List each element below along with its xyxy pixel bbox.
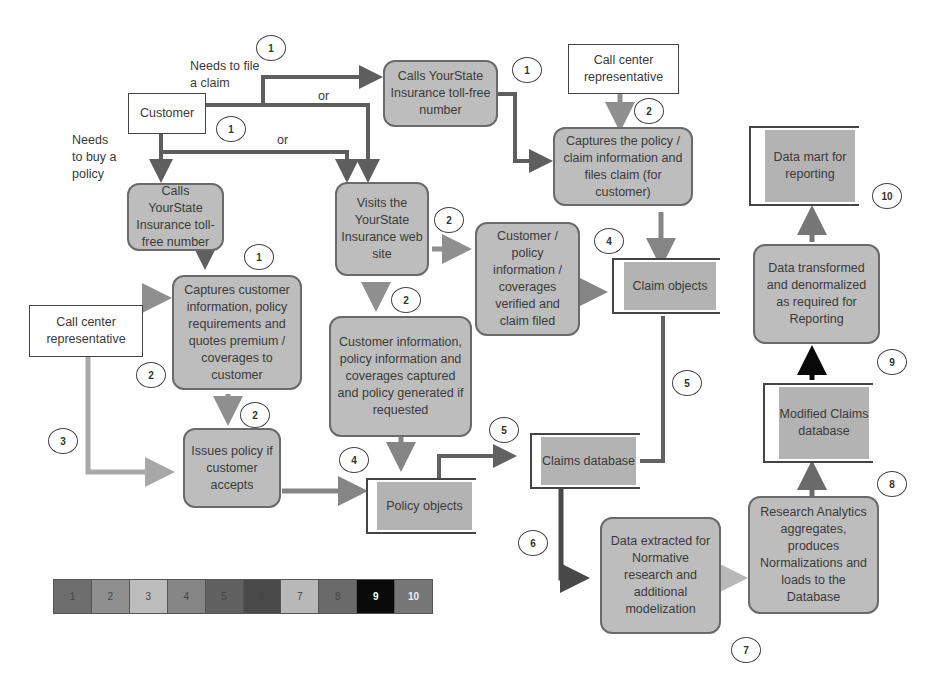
- customer-info-captured-label: Customer information, policy information…: [335, 334, 466, 419]
- step-badge: 8: [877, 471, 907, 497]
- data-extracted-node[interactable]: Data extracted for Normative research an…: [600, 517, 721, 634]
- step-badge: 2: [434, 207, 464, 233]
- data-mart-label: Data mart for reporting: [765, 149, 855, 183]
- needs-buy-policy-label: Needs to buy a policy: [72, 132, 122, 183]
- step-badge: 1: [244, 244, 274, 270]
- modified-claims-db-label: Modified Claims database: [779, 406, 869, 440]
- calls-tollfree-claim-node[interactable]: Calls YourState Insurance toll-free numb…: [383, 60, 498, 127]
- captures-customer-info-node[interactable]: Captures customer information, policy re…: [172, 275, 302, 390]
- captures-policy-claim-node[interactable]: Captures the policy / claim information …: [553, 127, 693, 206]
- legend-cell-7: 7: [281, 580, 319, 613]
- data-transformed-node[interactable]: Data transformed and denormalized as req…: [753, 244, 880, 344]
- policy-objects-label: Policy objects: [386, 498, 462, 515]
- or-top-label: or: [318, 88, 329, 105]
- customer-label: Customer: [140, 105, 194, 122]
- calls-tollfree-claim-label: Calls YourState Insurance toll-free numb…: [389, 68, 492, 119]
- step-badge: 2: [634, 98, 664, 124]
- or-mid-label: or: [277, 132, 288, 149]
- captures-policy-claim-label: Captures the policy / claim information …: [559, 133, 687, 201]
- claim-objects-store[interactable]: Claim objects: [612, 258, 720, 314]
- call-center-rep-top-actor[interactable]: Call center representative: [568, 44, 679, 94]
- calls-tollfree-buy-node[interactable]: Calls YourState Insurance toll-free numb…: [127, 183, 224, 251]
- claim-objects-label: Claim objects: [632, 278, 707, 295]
- legend-cell-8: 8: [319, 580, 357, 613]
- step-badge: 6: [518, 530, 548, 556]
- step-color-legend: 1 2 3 4 5 6 7 8 9 10: [53, 579, 433, 614]
- customer-info-captured-node[interactable]: Customer information, policy information…: [329, 316, 472, 437]
- calls-tollfree-buy-label: Calls YourState Insurance toll-free numb…: [133, 183, 218, 251]
- data-mart-store[interactable]: Data mart for reporting: [749, 126, 859, 206]
- step-badge: 3: [48, 428, 78, 454]
- legend-cell-2: 2: [92, 580, 130, 613]
- step-badge: 2: [391, 287, 421, 313]
- call-center-rep-top-label: Call center representative: [573, 52, 674, 86]
- customer-actor[interactable]: Customer: [128, 93, 206, 134]
- step-badge: 5: [489, 417, 519, 443]
- legend-cell-10: 10: [395, 580, 432, 613]
- step-badge: 10: [872, 183, 902, 209]
- legend-cell-1: 1: [54, 580, 92, 613]
- modified-claims-db-store[interactable]: Modified Claims database: [763, 383, 873, 463]
- step-badge: 4: [594, 228, 624, 254]
- claims-database-label: Claims database: [542, 453, 635, 470]
- legend-cell-6: 6: [244, 580, 282, 613]
- policy-objects-store[interactable]: Policy objects: [366, 478, 476, 534]
- step-badge: 7: [731, 637, 761, 663]
- call-center-rep-left-actor[interactable]: Call center representative: [29, 305, 143, 357]
- captures-customer-info-label: Captures customer information, policy re…: [178, 282, 296, 384]
- step-badge: 2: [240, 402, 270, 428]
- claims-database-store[interactable]: Claims database: [530, 433, 640, 489]
- data-transformed-label: Data transformed and denormalized as req…: [759, 260, 874, 328]
- issues-policy-label: Issues policy if customer accepts: [189, 443, 275, 494]
- legend-cell-9: 9: [357, 580, 395, 613]
- needs-file-claim-label: Needs to file a claim: [190, 58, 260, 92]
- step-badge: 1: [216, 116, 246, 142]
- legend-cell-5: 5: [206, 580, 244, 613]
- step-badge: 1: [512, 57, 542, 83]
- step-badge: 5: [672, 370, 702, 396]
- legend-cell-4: 4: [168, 580, 206, 613]
- data-extracted-label: Data extracted for Normative research an…: [606, 533, 715, 618]
- visits-website-node[interactable]: Visits the YourState Insurance web site: [335, 182, 429, 276]
- step-badge: 1: [256, 35, 286, 61]
- legend-cell-3: 3: [130, 580, 168, 613]
- research-analytics-node[interactable]: Research Analytics aggregates, produces …: [748, 496, 879, 614]
- visits-website-label: Visits the YourState Insurance web site: [341, 195, 423, 263]
- step-badge: 9: [877, 349, 907, 375]
- step-badge: 4: [339, 447, 369, 473]
- call-center-rep-left-label: Call center representative: [34, 314, 138, 348]
- customer-policy-verified-label: Customer / policy information / coverage…: [481, 228, 574, 330]
- issues-policy-node[interactable]: Issues policy if customer accepts: [183, 428, 281, 508]
- step-badge: 2: [136, 362, 166, 388]
- research-analytics-label: Research Analytics aggregates, produces …: [754, 504, 873, 606]
- customer-policy-verified-node[interactable]: Customer / policy information / coverage…: [475, 222, 580, 336]
